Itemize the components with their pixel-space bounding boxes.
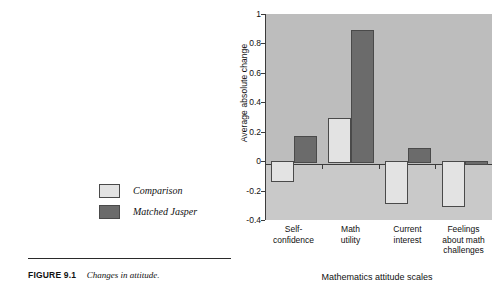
legend-label-matched-jasper: Matched Jasper: [133, 206, 197, 217]
y-axis-tick-mark: [261, 73, 265, 74]
comparison-swatch-icon: [99, 184, 120, 198]
y-axis-tick-mark: [261, 132, 265, 133]
x-axis-category-line: confidence: [265, 235, 322, 246]
bar-matched-jasper: [465, 161, 488, 165]
caption-divider: [28, 258, 231, 259]
y-axis-tick-label: 0.8: [249, 39, 261, 48]
x-axis-category-label: Currentinterest: [379, 224, 436, 245]
x-axis-category-label: Mathutility: [322, 224, 379, 245]
x-axis-category-line: about math: [435, 235, 492, 246]
y-axis-tick-mark: [261, 161, 265, 162]
legend-label-comparison: Comparison: [133, 185, 182, 196]
y-axis-tick-mark: [261, 220, 265, 221]
y-axis-tick-mark: [261, 191, 265, 192]
x-axis-category-line: Current: [379, 224, 436, 235]
bar-comparison: [328, 118, 351, 163]
figure-caption: FIGURE 9.1 Changes in attitude.: [28, 264, 160, 282]
bar-chart: Average absolute change 10.80.60.40.20-0…: [225, 4, 492, 254]
x-axis-category-label: Feelingsabout mathchallenges: [435, 224, 492, 256]
bar-matched-jasper: [351, 30, 374, 163]
plot-area: 10.80.60.40.20-0.2-0.4: [265, 14, 492, 220]
bar-comparison: [385, 161, 408, 204]
y-axis-title: Average absolute change: [239, 33, 249, 153]
figure-container: Average absolute change 10.80.60.40.20-0…: [0, 0, 492, 304]
bar-comparison: [271, 161, 294, 182]
chart-legend: Comparison Matched Jasper: [99, 180, 197, 222]
y-axis-tick-label: 0.2: [249, 127, 261, 136]
y-axis-tick-mark: [261, 14, 265, 15]
y-axis-tick-mark: [261, 43, 265, 44]
legend-item-matched-jasper: Matched Jasper: [99, 201, 197, 222]
x-axis-category-line: interest: [379, 235, 436, 246]
x-axis-category-line: challenges: [435, 245, 492, 256]
y-axis-tick-mark: [261, 102, 265, 103]
y-axis-tick-label: -0.4: [246, 216, 261, 225]
x-axis-category-line: Self-: [265, 224, 322, 235]
x-axis-category-line: Feelings: [435, 224, 492, 235]
y-axis-line: [265, 14, 266, 220]
figure-caption-text: Changes in attitude.: [87, 270, 160, 280]
legend-item-comparison: Comparison: [99, 180, 197, 201]
x-axis-category-line: utility: [322, 235, 379, 246]
matched-jasper-swatch-icon: [99, 205, 120, 219]
bar-matched-jasper: [294, 136, 317, 163]
x-axis-tick-mark: [322, 164, 323, 169]
x-axis-category-label: Self-confidence: [265, 224, 322, 245]
bar-matched-jasper: [408, 148, 431, 163]
figure-caption-label: FIGURE 9.1: [28, 270, 76, 280]
x-axis-category-line: Math: [322, 224, 379, 235]
y-axis-tick-label: -0.2: [246, 186, 261, 195]
y-axis-tick-label: 0.4: [249, 98, 261, 107]
bar-comparison: [442, 161, 465, 207]
x-axis-tick-mark: [379, 164, 380, 169]
x-axis-title: Mathematics attitude scales: [287, 272, 467, 282]
x-axis-tick-mark: [435, 164, 436, 169]
y-axis-tick-label: 0.6: [249, 69, 261, 78]
